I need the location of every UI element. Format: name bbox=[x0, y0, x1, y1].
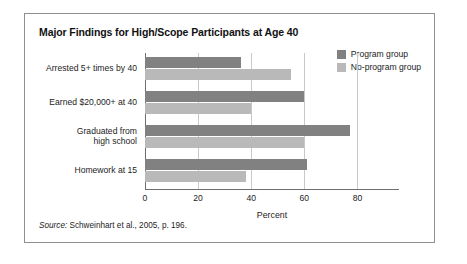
bar-group: Homework at 15 bbox=[145, 159, 392, 182]
bar-group: Graduated fromhigh school bbox=[145, 125, 392, 148]
bar-no-program bbox=[145, 69, 291, 80]
bar-no-program bbox=[145, 171, 246, 182]
x-axis-title: Percent bbox=[145, 210, 399, 220]
x-tick-label-40: 40 bbox=[246, 193, 256, 203]
x-axis-line bbox=[145, 189, 399, 190]
category-label: Arrested 5+ times by 40 bbox=[46, 63, 137, 73]
x-tick-label-0: 0 bbox=[143, 193, 148, 203]
category-label: Homework at 15 bbox=[74, 165, 137, 175]
source-text: Schweinhart et al., 2005, p. 196. bbox=[67, 221, 187, 230]
category-label: Graduated fromhigh school bbox=[77, 126, 137, 146]
plot-area: Arrested 5+ times by 40Earned $20,000+ a… bbox=[145, 53, 392, 189]
chart-title: Major Findings for High/Scope Participan… bbox=[39, 26, 298, 38]
category-label: Earned $20,000+ at 40 bbox=[49, 97, 137, 107]
source-note: Source: Schweinhart et al., 2005, p. 196… bbox=[39, 221, 187, 230]
x-tick-label-80: 80 bbox=[353, 193, 363, 203]
bar-program bbox=[145, 91, 304, 102]
bar-program bbox=[145, 159, 307, 170]
bar-group: Earned $20,000+ at 40 bbox=[145, 91, 392, 114]
figure-panel: Major Findings for High/Scope Participan… bbox=[24, 13, 435, 243]
bar-no-program bbox=[145, 103, 251, 114]
x-tick-label-60: 60 bbox=[300, 193, 310, 203]
bar-no-program bbox=[145, 137, 304, 148]
bar-program bbox=[145, 125, 350, 136]
bar-group: Arrested 5+ times by 40 bbox=[145, 57, 392, 80]
bar-program bbox=[145, 57, 241, 68]
x-tick-label-20: 20 bbox=[193, 193, 203, 203]
source-label: Source: bbox=[39, 221, 67, 230]
